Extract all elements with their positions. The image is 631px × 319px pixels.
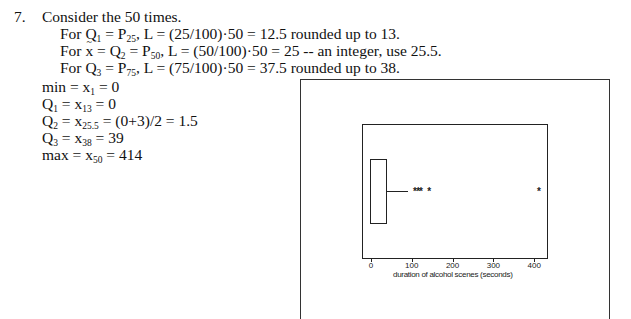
step-text: For Q — [60, 59, 97, 76]
outlier-marker: * — [427, 187, 431, 197]
outlier-marker: * — [537, 187, 541, 197]
subscript: 75 — [126, 68, 136, 78]
result-text: max = x — [42, 146, 93, 163]
x-tick-label: 200 — [446, 261, 459, 270]
result-text: Q — [42, 112, 53, 129]
result-text: Q — [42, 129, 53, 146]
problem-intro: Consider the 50 times. — [42, 8, 182, 25]
step-text: For — [60, 42, 85, 59]
x-bar-symbol: x — [85, 42, 93, 59]
outlier-marker: * — [419, 187, 423, 197]
problem-number: 7. — [14, 8, 26, 25]
result-text: min = x — [42, 78, 90, 95]
result-max: max = x50 = 414 — [42, 146, 142, 169]
whisker-high — [387, 191, 408, 192]
result-text: = 0 — [92, 95, 116, 112]
result-text: = x — [58, 95, 82, 112]
step-text: , L = (25/100)·50 = 12.5 rounded up to 1… — [136, 25, 400, 42]
result-text: = 414 — [102, 146, 142, 163]
x-tick-label: 0 — [369, 261, 373, 270]
x-tick-label: 100 — [405, 261, 418, 270]
step-text: , L = (50/100)·50 = 25 -- an integer, us… — [160, 42, 441, 59]
step-text: = P — [101, 25, 126, 42]
result-text: = x — [58, 129, 82, 146]
result-text: = 0 — [95, 78, 119, 95]
x-tick-label: 300 — [487, 261, 500, 270]
result-text: = (0+3)/2 = 1.5 — [99, 112, 198, 129]
x-axis-label: duration of alcohol scenes (seconds) — [393, 270, 513, 279]
step-text: = P — [126, 42, 151, 59]
step-text: = Q — [93, 42, 121, 59]
result-text: = 39 — [92, 129, 124, 146]
result-text: Q — [42, 95, 53, 112]
step-text: , L = (75/100)·50 = 37.5 rounded up to 3… — [136, 59, 400, 76]
result-text: = x — [58, 112, 82, 129]
subscript: 50 — [93, 155, 103, 165]
step-text: = P — [101, 59, 126, 76]
x-tick-label: 400 — [528, 261, 541, 270]
box-iqr — [370, 159, 387, 224]
